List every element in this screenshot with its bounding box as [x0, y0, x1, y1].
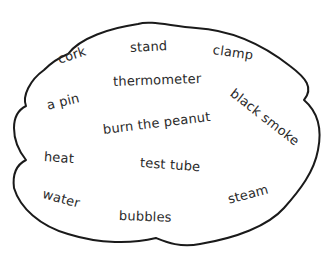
word-thermometer: thermometer — [113, 71, 202, 89]
word-heat: heat — [43, 149, 74, 166]
word-cloud-diagram: cork stand clamp thermometer black smoke… — [0, 0, 326, 259]
word-stand: stand — [130, 38, 168, 55]
word-bubbles: bubbles — [119, 208, 172, 225]
